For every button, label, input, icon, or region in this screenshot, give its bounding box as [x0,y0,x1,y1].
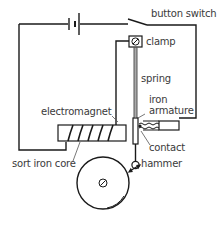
screw-clamp-icon [129,36,142,47]
label-armature: armature [149,106,194,116]
gong-icon [77,157,129,209]
label-button-switch: button switch [151,9,217,19]
switch-icon [128,19,147,25]
label-clamp: clamp [146,37,176,47]
leader-electromagnet [112,116,118,122]
armature-icon [133,118,138,162]
label-sort-iron-core: sort iron core [12,159,76,169]
label-iron: iron [149,95,167,105]
coil-icon [58,125,126,141]
spring-icon [134,47,137,118]
label-hammer: hammer [141,159,182,169]
leader-armature [138,114,145,118]
battery-cell-icon [69,13,79,35]
wire-clamp [116,41,129,126]
label-spring: spring [141,74,171,84]
electric-bell-diagram: button switch clamp spring iron armature… [0,0,224,226]
label-contact: contact [149,143,185,153]
label-electromagnet: electromagnet [41,107,112,117]
contact-screw-icon [138,121,179,130]
